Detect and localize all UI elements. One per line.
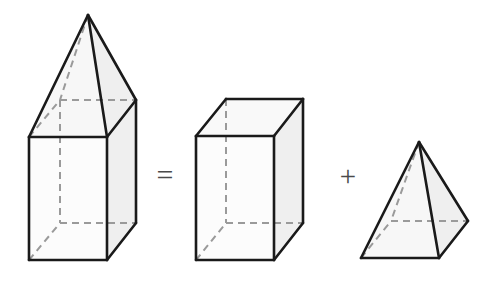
composite-prism-with-pyramid (29, 15, 136, 260)
plus-operator: + (332, 162, 364, 194)
prism-front-face (196, 136, 274, 260)
geometry-diagram (0, 0, 493, 281)
equals-operator: = (148, 160, 182, 194)
rectangular-prism (196, 99, 303, 260)
composite-prism-front-face (29, 137, 107, 260)
figure-canvas: = + (0, 0, 493, 281)
square-pyramid (361, 142, 468, 258)
